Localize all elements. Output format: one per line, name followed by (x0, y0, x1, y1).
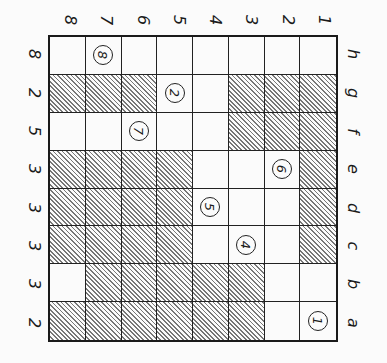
row-count-label: 5 (24, 121, 44, 141)
row-count-label: 3 (24, 198, 44, 218)
hatched-square (122, 226, 158, 264)
empty-square: 1 (300, 302, 336, 340)
column-label: 4 (205, 10, 225, 30)
row-count-label: 8 (24, 44, 44, 64)
empty-square (300, 264, 336, 302)
empty-square (265, 37, 301, 75)
hatched-square (300, 75, 336, 113)
hatched-square (157, 264, 193, 302)
empty-square (265, 189, 301, 227)
hatched-square (86, 264, 122, 302)
circled-number-marker: 1 (308, 311, 328, 331)
hatched-square (229, 264, 265, 302)
hatched-square (229, 302, 265, 340)
row-letter-label: a (343, 313, 363, 333)
column-label: 5 (169, 10, 189, 30)
circled-number-marker: 5 (200, 197, 220, 217)
hatched-square (157, 189, 193, 227)
row-count-label: 3 (24, 236, 44, 256)
circled-number-marker: 6 (272, 159, 292, 179)
hatched-square (50, 189, 86, 227)
hatched-square (300, 189, 336, 227)
empty-square: 4 (229, 226, 265, 264)
empty-square (265, 302, 301, 340)
empty-square (193, 226, 229, 264)
empty-square (50, 264, 86, 302)
empty-square (193, 37, 229, 75)
row-letter-label: d (343, 198, 363, 218)
hatched-square (229, 75, 265, 113)
hatched-square (122, 264, 158, 302)
hatched-square (50, 302, 86, 340)
empty-square (193, 113, 229, 151)
empty-square (50, 113, 86, 151)
hatched-square (50, 75, 86, 113)
empty-square (86, 113, 122, 151)
row-count-label: 3 (24, 274, 44, 294)
empty-square (157, 37, 193, 75)
column-label: 7 (96, 10, 116, 30)
row-letter-label: g (343, 83, 363, 103)
row-count-label: 2 (24, 83, 44, 103)
hatched-square (122, 151, 158, 189)
hatched-square (265, 75, 301, 113)
hatched-square (86, 226, 122, 264)
hatched-square (157, 151, 193, 189)
circled-number-marker: 2 (165, 83, 185, 103)
hatched-square (300, 113, 336, 151)
column-label: 8 (60, 10, 80, 30)
empty-square: 8 (86, 37, 122, 75)
hatched-square (229, 113, 265, 151)
empty-square: 5 (193, 189, 229, 227)
hatched-square (86, 75, 122, 113)
empty-square: 7 (122, 113, 158, 151)
empty-square (300, 37, 336, 75)
column-label: 3 (241, 10, 261, 30)
row-letter-label: h (343, 44, 363, 64)
hatched-square (86, 189, 122, 227)
hatched-square (122, 189, 158, 227)
hatched-square (265, 113, 301, 151)
row-letter-label: e (343, 159, 363, 179)
row-letter-label: b (343, 274, 363, 294)
row-letter-label: f (343, 121, 363, 141)
hatched-square (157, 226, 193, 264)
hatched-square (122, 302, 158, 340)
row-letter-label: c (343, 236, 363, 256)
column-label: 1 (314, 10, 334, 30)
hatched-square (86, 151, 122, 189)
hatched-square (300, 151, 336, 189)
column-label: 6 (133, 10, 153, 30)
circled-number-marker: 8 (93, 45, 113, 65)
empty-square (229, 151, 265, 189)
circled-number-marker: 4 (236, 235, 256, 255)
hatched-square (300, 226, 336, 264)
hatched-square (122, 75, 158, 113)
empty-square (229, 37, 265, 75)
row-count-label: 2 (24, 313, 44, 333)
circled-number-marker: 7 (129, 121, 149, 141)
row-count-label: 3 (24, 159, 44, 179)
empty-square (50, 37, 86, 75)
empty-square (265, 264, 301, 302)
column-label: 2 (278, 10, 298, 30)
hatched-square (86, 302, 122, 340)
empty-square (193, 151, 229, 189)
empty-square (157, 113, 193, 151)
hatched-square (157, 302, 193, 340)
hatched-square (50, 151, 86, 189)
empty-square: 6 (265, 151, 301, 189)
empty-square (265, 226, 301, 264)
hatched-square (193, 302, 229, 340)
hatched-square (50, 226, 86, 264)
empty-square (122, 37, 158, 75)
empty-square: 2 (157, 75, 193, 113)
board-grid: 8276541 (48, 35, 338, 342)
empty-square (193, 75, 229, 113)
hatched-square (193, 264, 229, 302)
empty-square (229, 189, 265, 227)
